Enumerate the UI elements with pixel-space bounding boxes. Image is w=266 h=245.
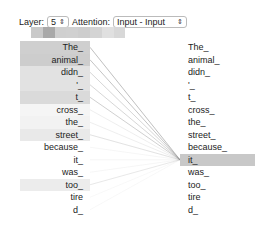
right-token[interactable]: the_ xyxy=(180,116,255,129)
right-token[interactable]: was_ xyxy=(180,166,255,179)
left-token[interactable]: d_ xyxy=(20,204,90,217)
attention-line xyxy=(90,160,180,185)
left-token[interactable]: was_ xyxy=(20,166,90,179)
left-token[interactable]: street_ xyxy=(20,129,90,142)
attention-line xyxy=(90,97,180,160)
left-token[interactable]: the_ xyxy=(20,116,90,129)
right-token[interactable]: tire xyxy=(180,191,255,204)
attention-line xyxy=(90,160,180,198)
source-token-column: The_animal_didn_'_t_cross_the_street_bec… xyxy=(20,41,90,216)
left-token[interactable]: tire xyxy=(20,191,90,204)
right-token[interactable]: d_ xyxy=(180,204,255,217)
left-token[interactable]: '_ xyxy=(20,79,90,92)
left-token[interactable]: it_ xyxy=(20,154,90,167)
right-token[interactable]: too_ xyxy=(180,179,255,192)
right-token[interactable]: didn_ xyxy=(180,66,255,79)
right-token[interactable]: t_ xyxy=(180,91,255,104)
left-token[interactable]: because_ xyxy=(20,141,90,154)
left-token[interactable]: cross_ xyxy=(20,104,90,117)
right-token[interactable]: animal_ xyxy=(180,54,255,67)
left-token[interactable]: The_ xyxy=(20,41,90,54)
attention-line xyxy=(90,160,180,173)
attention-line xyxy=(90,60,180,160)
attention-line xyxy=(90,72,180,160)
right-token[interactable]: cross_ xyxy=(180,104,255,117)
attention-line xyxy=(90,85,180,160)
target-token-column: The_animal_didn_'_t_cross_the_street_bec… xyxy=(180,41,255,216)
left-token[interactable]: t_ xyxy=(20,91,90,104)
attention-line xyxy=(90,160,180,210)
attention-line xyxy=(90,122,180,160)
attention-line xyxy=(90,47,180,160)
right-token[interactable]: The_ xyxy=(180,41,255,54)
right-token[interactable]: street_ xyxy=(180,129,255,142)
attention-line xyxy=(90,110,180,160)
right-token[interactable]: it_ xyxy=(180,154,255,167)
left-token[interactable]: didn_ xyxy=(20,66,90,79)
right-token[interactable]: because_ xyxy=(180,141,255,154)
left-token[interactable]: animal_ xyxy=(20,54,90,67)
right-token[interactable]: '_ xyxy=(180,79,255,92)
left-token[interactable]: too_ xyxy=(20,179,90,192)
